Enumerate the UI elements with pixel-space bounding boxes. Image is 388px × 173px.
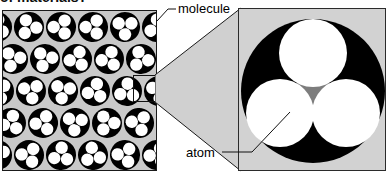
molecule-leader-line — [157, 9, 176, 21]
page-heading: of materials? — [0, 0, 200, 6]
label-atom: atom — [186, 145, 215, 160]
molecule-atom — [97, 123, 109, 135]
magnified-panel — [238, 8, 386, 171]
molecule-atom — [108, 117, 120, 129]
label-molecule: molecule — [178, 1, 230, 16]
magnified-atom-bottom-left — [246, 79, 314, 147]
heading-clip: of materials? — [0, 0, 200, 6]
magnified-molecule-group — [241, 19, 385, 163]
callout-selection-box[interactable] — [133, 75, 157, 102]
magnified-svg — [239, 9, 385, 170]
magnified-atom-bottom-right — [312, 79, 380, 147]
figure-root: of materials? molecule atom — [0, 0, 388, 173]
lattice-molecule — [92, 108, 122, 138]
molecule-atom — [97, 110, 109, 122]
magnified-atom-top — [279, 19, 347, 87]
